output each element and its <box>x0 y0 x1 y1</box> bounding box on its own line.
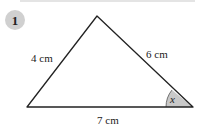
side-label-base: 7 cm <box>97 114 119 126</box>
question-number: 1 <box>12 13 19 28</box>
side-label-left: 4 cm <box>31 52 53 64</box>
triangle-diagram: 1 4 cm 6 cm 7 cm x <box>0 0 199 134</box>
angle-label: x <box>169 93 175 105</box>
side-label-right: 6 cm <box>146 48 168 60</box>
clipped-text-line <box>20 0 195 2</box>
